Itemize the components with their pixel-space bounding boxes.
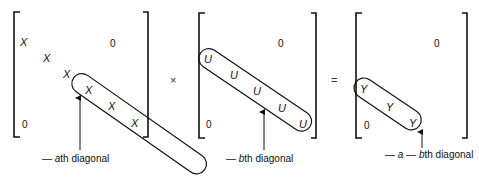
matrix-element: Y: [360, 83, 368, 95]
matrix-a: X X X X X X 0 0 — ath diagonal: [14, 12, 210, 178]
upper-zero: 0: [110, 38, 116, 49]
lower-zero: 0: [206, 119, 212, 130]
matrix-result: Y Y Y 0 0 — a — bth diagonal: [350, 13, 473, 160]
equals-operator: =: [331, 74, 337, 86]
matrix-element: U: [299, 118, 307, 130]
matrix-element: X: [107, 100, 116, 112]
matrix-element: U: [204, 53, 212, 65]
matrix-element: X: [19, 36, 28, 48]
lower-zero: 0: [22, 119, 28, 130]
matrix-element: U: [253, 85, 261, 97]
upper-zero: 0: [434, 38, 440, 49]
upper-zero: 0: [278, 38, 284, 49]
matrix-element: X: [130, 117, 139, 129]
left-bracket: [199, 13, 205, 138]
right-bracket: [462, 13, 467, 138]
right-bracket: [143, 12, 148, 137]
matrix-element: X: [62, 68, 71, 80]
ath-diagonal-label: — ath diagonal: [42, 153, 109, 164]
matrix-element: U: [278, 102, 286, 114]
matrix-element: X: [84, 84, 93, 96]
matrix-element: X: [42, 52, 51, 64]
matrix-element: Y: [409, 117, 417, 129]
left-bracket: [14, 12, 20, 137]
bth-diagonal-label: — bth diagonal: [226, 153, 293, 164]
diagonal-matrix-product-diagram: X X X X X X 0 0 — ath diagonal × U U U U…: [0, 0, 479, 187]
matrix-element: U: [230, 69, 238, 81]
multiply-operator: ×: [170, 74, 176, 86]
a-minus-bth-diagonal-label: — a — bth diagonal: [385, 149, 473, 160]
lower-zero: 0: [364, 120, 370, 131]
matrix-element: Y: [386, 101, 394, 113]
left-bracket: [356, 13, 362, 138]
matrix-b: U U U U U 0 0 — bth diagonal: [195, 13, 316, 164]
